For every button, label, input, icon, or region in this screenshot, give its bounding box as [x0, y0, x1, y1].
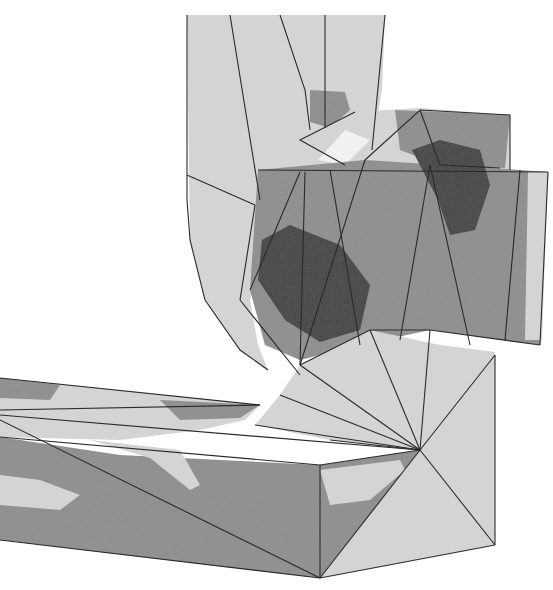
pipe-elbow-mesh	[0, 0, 553, 590]
contour-regions	[0, 15, 548, 578]
fem-mesh-figure	[0, 0, 553, 590]
